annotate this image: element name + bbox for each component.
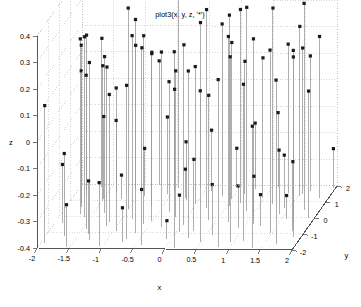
data-point-marker: [120, 174, 123, 177]
data-point-marker: [105, 65, 108, 68]
data-point-marker: [243, 60, 246, 63]
x-tick-label: -2: [29, 254, 35, 263]
data-point-marker: [115, 86, 118, 89]
data-point-marker: [277, 149, 280, 152]
data-point-marker: [207, 94, 210, 97]
data-point-marker: [254, 122, 257, 125]
matlab-figure-window: plot3(x, y, z, '*') -2-1.5-1-0.500.511.5…: [0, 0, 361, 307]
data-point-marker: [210, 129, 213, 132]
data-point-marker: [229, 55, 232, 58]
data-point-marker: [108, 93, 111, 96]
x-tick-label: -1.5: [58, 254, 70, 263]
z-tick-label: 0.3: [20, 58, 30, 67]
data-point-marker: [85, 34, 88, 37]
data-point-marker: [102, 115, 105, 118]
data-point-marker: [221, 22, 224, 25]
x-tick-label: 1: [221, 256, 225, 265]
data-point-marker: [103, 55, 106, 58]
data-point-marker: [239, 8, 242, 11]
data-point-marker: [252, 37, 255, 40]
data-point-marker: [173, 88, 176, 91]
x-tick-label: 0: [158, 255, 162, 264]
data-point-marker: [127, 6, 130, 9]
data-point-marker: [287, 43, 290, 46]
data-point-marker: [140, 188, 143, 191]
data-point-marker: [173, 50, 176, 53]
data-point-marker: [199, 21, 202, 24]
y-tick-label: 2: [346, 184, 350, 193]
data-point-marker: [85, 74, 88, 77]
z-axis-label: z: [9, 138, 13, 147]
data-point-marker: [302, 2, 305, 5]
data-point-marker: [245, 6, 248, 9]
data-point-marker: [217, 78, 220, 81]
data-point-marker: [65, 203, 68, 206]
data-point-marker: [167, 80, 170, 83]
data-point-marker: [283, 154, 286, 157]
y-tick-label: 0: [324, 216, 328, 225]
data-point-marker: [101, 64, 104, 67]
data-point-marker: [298, 25, 301, 28]
data-point-marker: [158, 59, 161, 62]
data-point-marker: [87, 179, 90, 182]
data-point-marker: [227, 35, 230, 38]
data-point-marker: [43, 104, 46, 107]
data-point-marker: [291, 160, 294, 163]
data-point-marker: [318, 35, 321, 38]
data-point-marker: [292, 49, 295, 52]
data-point-marker: [259, 193, 262, 196]
z-tick-label: -0.4: [18, 244, 30, 253]
data-point-marker: [80, 44, 83, 47]
data-point-marker: [187, 69, 190, 72]
data-point-marker: [332, 147, 335, 150]
z-tick-label: -0.2: [18, 191, 30, 200]
x-axis-label: x: [158, 283, 162, 292]
data-point-marker: [88, 61, 91, 64]
data-point-marker: [160, 50, 163, 53]
x-tick-label: -0.5: [121, 255, 133, 264]
data-point-marker: [174, 69, 177, 72]
data-point-marker: [211, 183, 214, 186]
data-point-marker: [251, 125, 254, 128]
x-tick-label: 1.5: [250, 256, 260, 265]
z-tick-label: -0.1: [18, 164, 30, 173]
data-point-marker: [63, 152, 66, 155]
data-point-marker: [80, 69, 83, 72]
figure-title: plot3(x, y, z, '*'): [155, 10, 205, 19]
data-point-marker: [309, 54, 312, 57]
data-point-marker: [205, 8, 208, 11]
data-point-marker: [79, 37, 82, 40]
data-point-marker: [100, 37, 103, 40]
data-point-marker: [184, 140, 187, 143]
data-point-marker: [242, 83, 245, 86]
data-point-marker: [165, 219, 168, 222]
y-tick-label: -2: [300, 248, 306, 257]
data-point-marker: [199, 89, 202, 92]
data-point-marker: [131, 34, 134, 37]
data-point-marker: [235, 147, 238, 150]
z-tick-label: 0: [26, 138, 30, 147]
data-point-marker: [178, 194, 181, 197]
z-tick-label: -0.3: [18, 217, 30, 226]
z-tick-label: 0.4: [20, 32, 30, 41]
data-point-marker: [271, 6, 274, 9]
data-point-marker: [252, 175, 255, 178]
x-tick-label: -1: [93, 255, 99, 264]
data-point-marker: [142, 34, 145, 37]
data-point-marker: [194, 65, 197, 68]
data-point-marker: [121, 206, 124, 209]
data-point-marker: [125, 84, 128, 87]
y-tick-label: -1: [311, 232, 317, 241]
data-point-marker: [143, 147, 146, 150]
data-point-marker: [134, 18, 137, 21]
data-point-marker: [184, 168, 187, 171]
x-tick-label: 0.5: [186, 255, 196, 264]
data-point-marker: [140, 46, 143, 49]
data-point-marker: [292, 55, 295, 58]
figure-background: [0, 0, 361, 307]
plot3-axes: plot3(x, y, z, '*') -2-1.5-1-0.500.511.5…: [0, 0, 361, 307]
z-tick-label: 0.1: [20, 111, 30, 120]
data-point-marker: [61, 163, 64, 166]
y-tick-label: 1: [335, 200, 339, 209]
data-point-marker: [276, 111, 279, 114]
